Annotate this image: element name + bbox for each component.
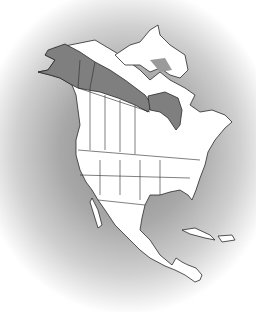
north-america-map [0, 0, 256, 312]
land-hispaniola [218, 235, 235, 242]
land-cuba [182, 228, 215, 240]
range-map [0, 0, 256, 312]
